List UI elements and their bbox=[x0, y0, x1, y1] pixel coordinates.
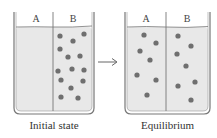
solute-particle bbox=[81, 31, 86, 36]
solute-particle bbox=[188, 43, 193, 48]
beaker-equilibrium bbox=[125, 12, 210, 114]
solute-particle bbox=[192, 79, 197, 84]
solute-particle bbox=[174, 51, 179, 56]
solute-particle bbox=[153, 77, 158, 82]
compartment-label-b-equilibrium: B bbox=[177, 13, 197, 24]
liquid-surface-initial bbox=[16, 26, 92, 27]
liquid-initial bbox=[16, 27, 92, 111]
solute-particle bbox=[57, 46, 62, 51]
caption-equilibrium: Equilibrium bbox=[125, 119, 210, 131]
solute-particle bbox=[57, 33, 62, 38]
caption-initial-state: Initial state bbox=[14, 119, 94, 131]
liquid-equilibrium bbox=[127, 27, 208, 111]
solute-particle bbox=[68, 85, 73, 90]
solute-particle bbox=[80, 78, 85, 83]
solute-particle bbox=[153, 40, 158, 45]
solute-particle bbox=[55, 68, 60, 73]
solute-particle bbox=[137, 48, 142, 53]
compartment-label-a-equilibrium: A bbox=[136, 13, 156, 24]
solute-particle bbox=[69, 66, 74, 71]
beaker-initial bbox=[14, 12, 94, 114]
solute-particle bbox=[144, 92, 149, 97]
compartment-label-b-initial: B bbox=[63, 13, 83, 24]
compartment-label-a-initial: A bbox=[26, 13, 46, 24]
solute-particle bbox=[175, 83, 180, 88]
solute-particle bbox=[58, 94, 63, 99]
solute-particle bbox=[147, 57, 152, 62]
solute-particle bbox=[70, 38, 75, 43]
solute-particle bbox=[81, 67, 86, 72]
solute-particle bbox=[65, 54, 70, 59]
solute-particle bbox=[58, 77, 63, 82]
arrow-icon bbox=[98, 59, 117, 66]
solute-particle bbox=[141, 32, 146, 37]
solute-particle bbox=[75, 95, 80, 100]
solute-particle bbox=[183, 63, 188, 68]
solute-particle bbox=[77, 53, 82, 58]
solute-particle bbox=[175, 33, 180, 38]
solute-particle bbox=[188, 97, 193, 102]
solute-particle bbox=[134, 72, 139, 77]
